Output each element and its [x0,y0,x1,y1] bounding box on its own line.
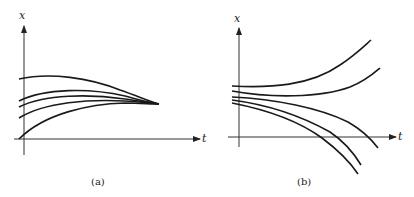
caption-b: (b) [297,176,311,187]
curve-b-2 [232,68,380,96]
x-axis-label-a: t [202,132,207,145]
panel-b: x t (b) [228,12,403,187]
curve-b-3 [232,97,378,148]
panel-a: x t (a) [14,9,207,187]
diagram: x t (a) x t (b) [0,0,414,197]
x-axis-label-b: t [398,130,403,143]
y-axis-label-b: x [234,12,241,25]
curve-b-1 [232,40,371,87]
y-axis-label-a: x [19,9,26,22]
caption-a: (a) [91,176,105,187]
